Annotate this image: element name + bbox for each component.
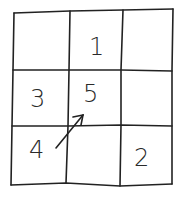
grid-line-h1 bbox=[13, 70, 172, 71]
cell-r2c2: 5 bbox=[83, 82, 98, 106]
arrow-icon bbox=[56, 115, 83, 148]
grid-border-left bbox=[11, 13, 14, 185]
cell-r3c1: 4 bbox=[29, 138, 44, 162]
grid-border-top bbox=[14, 9, 173, 13]
cell-r1c2: 1 bbox=[89, 35, 104, 59]
grid-line-v1 bbox=[66, 11, 70, 183]
grid-line-h2 bbox=[12, 125, 172, 126]
grid-border-bottom bbox=[11, 183, 172, 186]
grid-border-right bbox=[172, 9, 173, 184]
grid-line-v2 bbox=[120, 10, 123, 186]
cell-r3c3: 2 bbox=[134, 146, 149, 170]
cell-r2c1: 3 bbox=[30, 87, 45, 111]
